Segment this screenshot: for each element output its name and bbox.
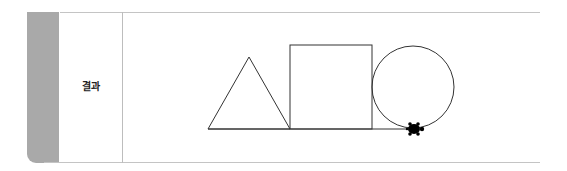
bottom-rule <box>44 162 540 163</box>
column-divider <box>122 12 123 163</box>
square-shape <box>290 45 372 129</box>
top-rule <box>60 12 540 13</box>
triangle-shape <box>208 57 290 129</box>
row-label: 결과 <box>60 78 122 93</box>
turtle-drawing <box>190 30 470 140</box>
circle-shape <box>372 46 454 128</box>
turtle-icon <box>406 122 424 136</box>
side-tab <box>27 12 59 163</box>
